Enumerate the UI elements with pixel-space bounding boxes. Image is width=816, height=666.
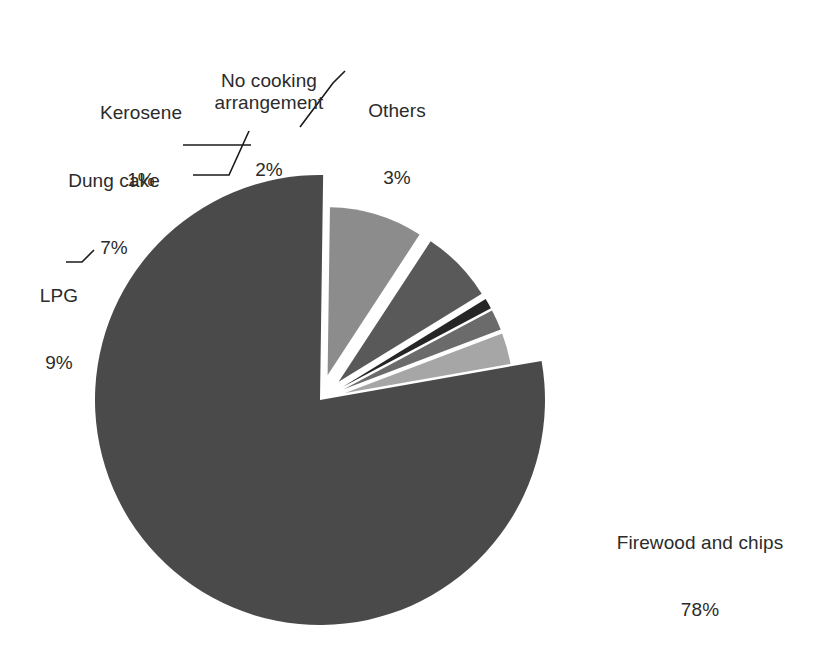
slice-label-no-cooking-arrangement-value: 2% bbox=[196, 159, 342, 181]
pie-chart: Kerosene 1% No cooking arrangement 2% Ot… bbox=[0, 0, 816, 666]
slice-label-others: Others 3% bbox=[345, 55, 449, 234]
slice-label-firewood-and-chips-value: 78% bbox=[597, 599, 803, 621]
slice-label-lpg-name: LPG bbox=[24, 285, 94, 307]
slice-label-no-cooking-arrangement-name: No cooking arrangement bbox=[196, 70, 342, 115]
slice-label-lpg-value: 9% bbox=[24, 352, 94, 374]
slice-label-kerosene-name: Kerosene bbox=[75, 102, 207, 124]
slice-label-lpg: LPG 9% bbox=[24, 240, 94, 419]
slice-label-others-name: Others bbox=[345, 100, 449, 122]
slice-label-others-value: 3% bbox=[345, 167, 449, 189]
slice-label-firewood-and-chips: Firewood and chips 78% bbox=[597, 487, 803, 666]
slice-label-dung-cake-name: Dung cake bbox=[38, 170, 190, 192]
slice-label-firewood-and-chips-name: Firewood and chips bbox=[597, 532, 803, 554]
slice-label-no-cooking-arrangement: No cooking arrangement 2% bbox=[196, 25, 342, 227]
